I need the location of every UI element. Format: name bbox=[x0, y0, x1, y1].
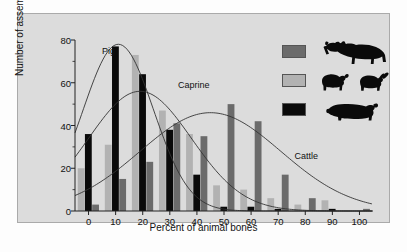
y-tick-label: 60 bbox=[60, 77, 71, 88]
y-tick-label: 80 bbox=[60, 35, 71, 46]
legend bbox=[282, 42, 404, 124]
legend-swatch-pig bbox=[282, 103, 306, 116]
pig-icon bbox=[316, 98, 400, 124]
legend-swatch-caprine bbox=[282, 74, 306, 87]
plot-panel: 020406080 0102030405060708090100 PigCapr… bbox=[17, 13, 390, 223]
curve-label-cattle: Cattle bbox=[294, 151, 318, 161]
sheep-goat-icon bbox=[316, 69, 400, 95]
figure: 020406080 0102030405060708090100 PigCapr… bbox=[0, 0, 407, 252]
y-tick-label: 40 bbox=[60, 120, 71, 131]
legend-item-caprine bbox=[282, 71, 404, 95]
curve-label-caprine: Caprine bbox=[178, 80, 210, 90]
legend-swatch-cattle bbox=[282, 45, 306, 58]
legend-item-cattle bbox=[282, 42, 404, 66]
y-tick-label: 0 bbox=[66, 206, 71, 217]
x-axis-title: Percent of animal bones bbox=[0, 222, 407, 233]
cow-icon bbox=[316, 40, 400, 66]
curve-label-pig: Pig bbox=[102, 46, 115, 56]
y-tick-label: 20 bbox=[60, 163, 71, 174]
y-axis-title: Number of assemblages bbox=[14, 0, 25, 76]
legend-item-pig bbox=[282, 100, 404, 124]
